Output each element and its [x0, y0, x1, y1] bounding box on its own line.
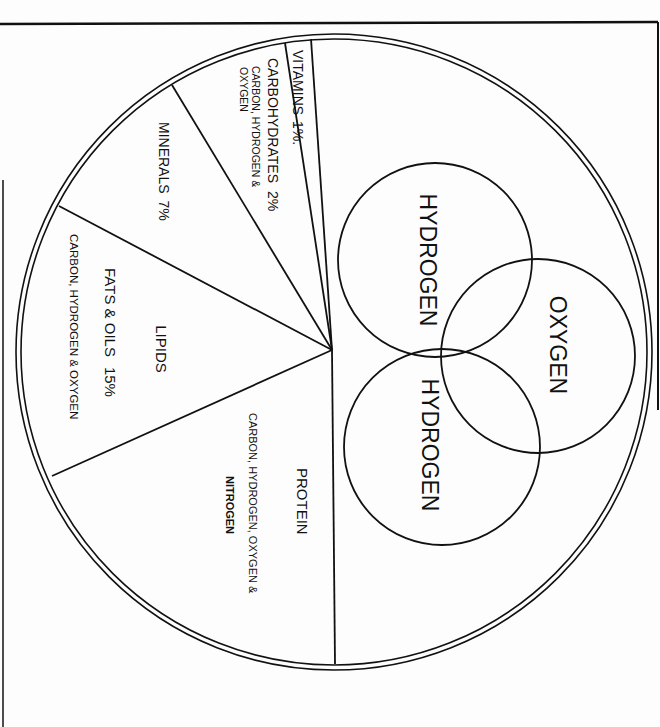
diagram-canvas: HYDROGEN OXYGEN HYDROGEN VITAMINS1%. CAR…	[0, 0, 660, 727]
protein-elements-line1: CARBON, HYDROGEN, OXYGEN &	[247, 413, 259, 594]
segment-lipids: LIPIDS FATS & OILS15% CARBON, HYDROGEN &…	[68, 234, 170, 419]
carbohydrates-elements-line2: OXYGEN	[238, 67, 250, 112]
minerals-label: MINERALS7%	[156, 122, 172, 221]
protein-elements-line2: NITROGEN	[224, 476, 236, 534]
carbohydrates-label: CARBOHYDRATES2%	[265, 58, 281, 211]
lipids-elements: CARBON, HYDROGEN & OXYGEN	[68, 234, 80, 419]
segment-vitamins: VITAMINS1%.	[290, 50, 306, 145]
hydrogen-top-label: HYDROGEN	[415, 194, 441, 327]
divider-lipids-protein	[52, 350, 332, 476]
vitamins-label: VITAMINS1%.	[290, 50, 306, 145]
frame-top-border	[0, 22, 658, 24]
divider-vitamins-right	[311, 39, 332, 350]
lipids-label: LIPIDS	[153, 325, 170, 373]
divider-minerals-lipids	[59, 206, 332, 350]
segment-protein: PROTEIN CARBON, HYDROGEN, OXYGEN & NITRO…	[224, 413, 311, 594]
protein-label: PROTEIN	[294, 468, 311, 535]
lipids-sublabel: FATS & OILS15%	[102, 268, 119, 397]
pie-diagram: HYDROGEN OXYGEN HYDROGEN VITAMINS1%. CAR…	[0, 0, 660, 727]
segment-carbohydrates: CARBOHYDRATES2% CARBON, HYDROGEN & OXYGE…	[238, 58, 281, 211]
segment-minerals: MINERALS7%	[156, 122, 172, 221]
divider-protein-water	[332, 350, 335, 664]
carbohydrates-elements-line1: CARBON, HYDROGEN &	[250, 66, 262, 187]
hydrogen-bottom-label: HYDROGEN	[417, 379, 443, 512]
oxygen-label: OXYGEN	[545, 296, 571, 394]
